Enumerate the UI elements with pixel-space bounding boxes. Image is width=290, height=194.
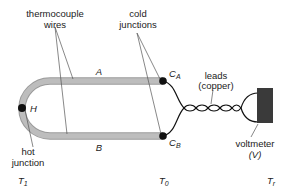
label-cold: cold <box>129 8 146 19</box>
label-wires: wires <box>43 19 66 30</box>
thermocouple-diagram: thermocouple wires cold junctions A B H … <box>0 0 290 194</box>
label-junctions: junctions <box>118 19 157 30</box>
label-copper: (copper) <box>198 80 233 91</box>
label-temp-ref: Tr <box>267 175 276 187</box>
label-voltmeter-v: (V) <box>249 149 262 160</box>
lead-to-meter-top <box>241 93 258 108</box>
label-voltmeter: voltmeter <box>235 138 274 149</box>
hot-junction-dot <box>18 104 26 112</box>
lead-b-curve <box>163 108 184 136</box>
pointer-leads <box>211 90 213 104</box>
label-temp-cold: T0 <box>159 175 169 187</box>
cold-junction-b-dot <box>159 132 167 140</box>
label-junction: junction <box>11 157 45 168</box>
label-thermocouple: thermocouple <box>26 8 84 19</box>
label-hot: hot <box>21 146 35 157</box>
pointer-voltmeter <box>251 124 258 137</box>
lead-a-curve <box>163 81 184 108</box>
label-temp-hot: T1 <box>18 175 28 187</box>
lead-to-meter-bottom <box>241 108 258 122</box>
voltmeter-box <box>257 88 273 123</box>
pointer-cold-a <box>137 33 160 79</box>
label-cold-b: CB <box>169 137 181 149</box>
label-wire-a: A <box>95 66 102 77</box>
labels: thermocouple wires cold junctions A B H … <box>11 8 276 187</box>
thermocouple-wire-loop <box>22 81 163 136</box>
label-cold-a: CA <box>169 68 181 80</box>
cold-junction-a-dot <box>159 77 167 85</box>
label-wire-b: B <box>96 142 103 153</box>
label-hot-marker: H <box>30 103 37 114</box>
